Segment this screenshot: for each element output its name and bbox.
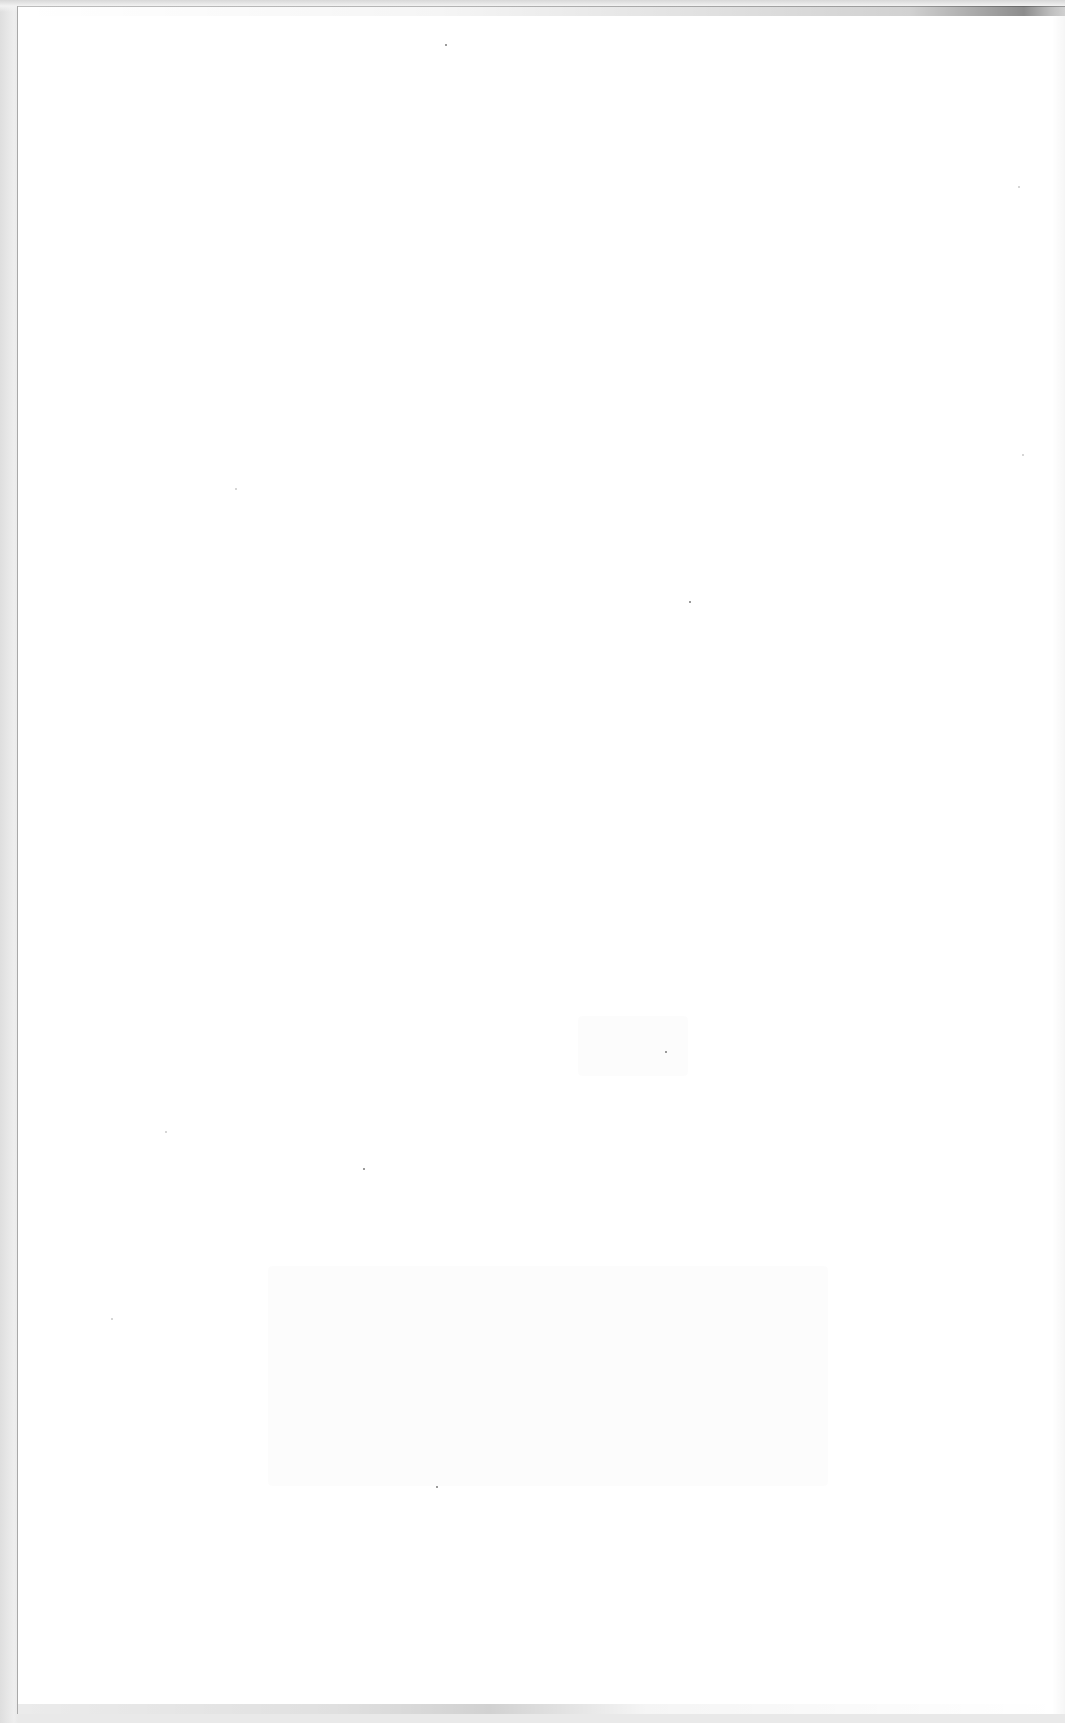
show-through-region — [268, 1266, 828, 1486]
dust-speck — [363, 1168, 365, 1170]
dust-speck — [445, 44, 447, 46]
dust-speck — [1022, 454, 1024, 456]
dust-speck — [1018, 186, 1020, 188]
bottom-edge-shadow — [18, 1704, 1065, 1714]
dust-speck — [165, 1131, 167, 1133]
blank-page — [17, 6, 1065, 1714]
right-edge-shading — [1052, 6, 1065, 1714]
dust-speck — [111, 1318, 113, 1320]
dust-speck — [689, 601, 691, 603]
dust-speck — [665, 1051, 667, 1053]
dust-speck — [436, 1486, 438, 1488]
top-edge-shadow — [18, 6, 1065, 16]
show-through-region — [578, 1016, 688, 1076]
dust-speck — [235, 488, 237, 490]
